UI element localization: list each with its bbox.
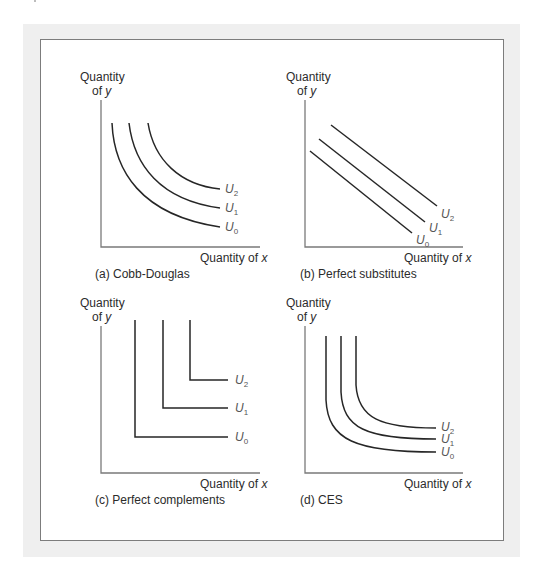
y-axis-label-line2: of y — [297, 84, 317, 98]
y-axis-label-line1: Quantity — [286, 70, 331, 84]
indifference-curve-u0 — [310, 151, 412, 233]
caption-c: (c) Perfect complements — [95, 493, 225, 507]
indifference-curve-u0 — [112, 123, 220, 227]
caption-d: (d) CES — [300, 493, 343, 507]
panel-ces: Quantity of y U2 U1 U0 Quantity of x (d)… — [286, 296, 472, 507]
x-axis-label: Quantity of x — [200, 251, 268, 265]
x-axis-label: Quantity of x — [404, 251, 472, 265]
curve-label-u2: U2 — [225, 182, 239, 198]
y-axis-label-line2: of y — [297, 310, 317, 324]
caption-a: (a) Cobb-Douglas — [95, 267, 190, 281]
curve-label-u0: U0 — [416, 233, 430, 249]
curve-label-u0: U0 — [235, 430, 249, 446]
curve-label-u2: U2 — [235, 373, 249, 389]
axes — [305, 326, 463, 473]
indifference-curve-u2 — [148, 123, 220, 189]
axes — [305, 100, 463, 247]
y-axis-label-line1: Quantity — [286, 296, 331, 310]
indifference-curves-figure: Quantity of y U2 U1 U0 Quantity of x (a)… — [0, 0, 541, 581]
indifference-curve-u2 — [356, 336, 436, 428]
panel-perfect-complements: Quantity of y U2 U1 U0 Quantity of x (c)… — [80, 296, 268, 507]
indifference-curve-u1 — [129, 123, 220, 208]
y-axis-label-line2: of y — [92, 84, 112, 98]
indifference-curve-u2 — [190, 320, 228, 380]
axes — [101, 100, 260, 247]
indifference-curve-u0 — [135, 320, 228, 437]
indifference-curve-u2 — [331, 125, 437, 206]
indifference-curve-u1 — [319, 139, 425, 222]
curve-label-u1: U1 — [429, 221, 443, 237]
panel-perfect-substitutes: Quantity of y U2 U1 U0 Quantity of x (b)… — [286, 70, 472, 281]
panel-cobb-douglas: Quantity of y U2 U1 U0 Quantity of x (a)… — [80, 70, 268, 281]
indifference-curve-u1 — [163, 320, 228, 408]
y-axis-label-line1: Quantity — [80, 296, 125, 310]
x-axis-label: Quantity of x — [404, 477, 472, 491]
curve-label-u0: U0 — [225, 220, 239, 236]
axes — [101, 326, 260, 473]
x-axis-label: Quantity of x — [200, 477, 268, 491]
y-axis-label-line1: Quantity — [80, 70, 125, 84]
curve-label-u2: U2 — [441, 207, 455, 223]
y-axis-label-line2: of y — [92, 310, 112, 324]
curve-label-u1: U1 — [225, 201, 239, 217]
caption-b: (b) Perfect substitutes — [300, 267, 417, 281]
curve-label-u1: U1 — [235, 401, 249, 417]
